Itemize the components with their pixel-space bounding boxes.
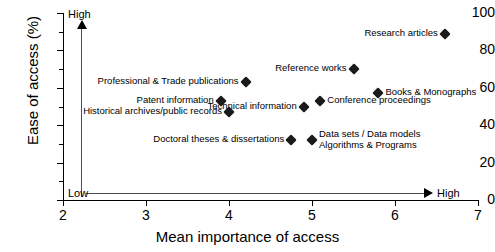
- diamond-marker-icon: [348, 63, 359, 74]
- x-axis-line: [63, 200, 479, 201]
- y-minor-tick-mark: [59, 69, 63, 70]
- y-axis-title: Ease of access (%): [24, 0, 41, 176]
- x-tick-label: 6: [380, 207, 410, 223]
- x-tick-label: 7: [463, 207, 493, 223]
- y-axis-line: [63, 13, 64, 201]
- scatter-chart: Ease of access (%) Mean importance of ac…: [0, 0, 495, 252]
- x-axis-title: Mean importance of access: [0, 228, 495, 245]
- data-point-label: Patent information: [137, 95, 214, 106]
- y-tick-mark: [57, 125, 63, 126]
- y-minor-tick-mark: [59, 107, 63, 108]
- diamond-marker-icon: [286, 134, 297, 145]
- data-point-label: Research articles: [364, 28, 437, 39]
- diamond-marker-icon: [306, 134, 317, 145]
- diamond-marker-icon: [315, 95, 326, 106]
- x-tick-label: 4: [214, 207, 244, 223]
- ease-axis-arrow-head: [77, 20, 87, 29]
- x-tick-mark: [395, 200, 396, 206]
- diamond-marker-icon: [439, 28, 450, 39]
- x-tick-label: 5: [297, 207, 327, 223]
- y-minor-tick-mark: [59, 144, 63, 145]
- x-tick-mark: [478, 200, 479, 206]
- y-tick-label: 100: [443, 4, 495, 20]
- y-tick-label: 20: [443, 154, 495, 170]
- y-tick-mark: [57, 50, 63, 51]
- x-tick-mark: [229, 200, 230, 206]
- data-point-label: Reference works: [275, 63, 346, 74]
- data-point-label: Professional & Trade publications: [98, 76, 239, 87]
- importance-axis-arrow-shaft: [86, 193, 426, 194]
- y-tick-label: 80: [443, 41, 495, 57]
- x-tick-label: 3: [131, 207, 161, 223]
- data-point-label: Data sets / Data models Algorithms & Pro…: [319, 129, 420, 150]
- x-axis-low-label: Low: [68, 187, 88, 199]
- y-axis-high-label: High: [68, 8, 91, 20]
- y-tick-label: 40: [443, 116, 495, 132]
- y-tick-mark: [57, 13, 63, 14]
- data-point-label: Conference proceedings: [327, 95, 431, 106]
- importance-axis-arrow-head: [424, 188, 433, 198]
- ease-axis-arrow-shaft: [81, 27, 82, 197]
- x-axis-high-label: High: [437, 187, 460, 199]
- y-tick-mark: [57, 88, 63, 89]
- x-tick-label: 2: [48, 207, 78, 223]
- data-point-label: Doctoral theses & dissertations: [153, 134, 284, 145]
- x-tick-mark: [146, 200, 147, 206]
- diamond-marker-icon: [298, 101, 309, 112]
- x-tick-mark: [312, 200, 313, 206]
- y-minor-tick-mark: [59, 32, 63, 33]
- y-minor-tick-mark: [59, 181, 63, 182]
- diamond-marker-icon: [240, 77, 251, 88]
- y-tick-mark: [57, 163, 63, 164]
- x-tick-mark: [63, 200, 64, 206]
- data-point-label: Historical archives/public records: [83, 106, 222, 117]
